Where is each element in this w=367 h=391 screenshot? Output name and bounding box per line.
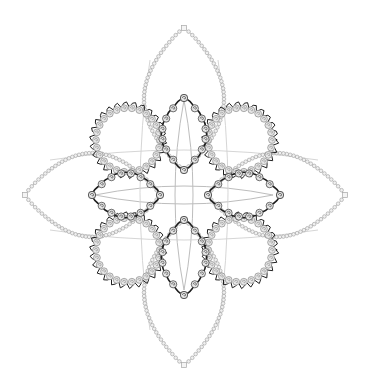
inner-petal-north xyxy=(159,94,209,173)
rosette-ornament xyxy=(0,0,367,391)
inner-petal-south xyxy=(159,216,209,298)
outer-petals xyxy=(23,26,348,368)
diagonal-loops xyxy=(90,102,279,289)
rosette-drawing xyxy=(0,0,367,391)
inner-petals xyxy=(88,94,283,298)
